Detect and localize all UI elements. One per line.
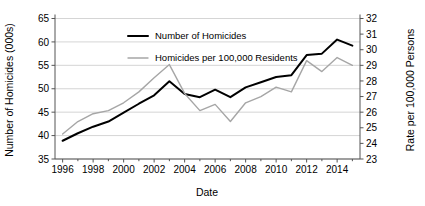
x-tick-label: 2014 — [326, 164, 349, 175]
x-tick-label: 2002 — [143, 164, 166, 175]
x-tick-label: 2008 — [235, 164, 258, 175]
x-tick-label: 2000 — [113, 164, 136, 175]
legend-label: Number of Homicides — [155, 30, 247, 41]
y-axis-right-title: Rate per 100,000 Persons — [404, 29, 416, 152]
x-tick-label: 2006 — [204, 164, 227, 175]
y-axis-left — [52, 15, 56, 160]
y-axis-right — [360, 15, 364, 160]
y-axis-right-ticklabels: 23242526272829303132 — [366, 13, 378, 165]
y-tick-label-right: 24 — [366, 138, 378, 149]
homicides-line-chart: 35404550556065 23242526272829303132 1996… — [0, 0, 425, 206]
chart-figure: 35404550556065 23242526272829303132 1996… — [0, 0, 425, 206]
y-tick-label-left: 45 — [38, 107, 50, 118]
y-tick-label-left: 60 — [38, 37, 50, 48]
y-tick-label-right: 32 — [366, 13, 378, 24]
x-axis-ticklabels: 1996199820002002200420062008201020122014 — [52, 164, 349, 175]
y-tick-label-right: 27 — [366, 91, 378, 102]
y-tick-label-right: 26 — [366, 107, 378, 118]
y-tick-label-left: 65 — [38, 13, 50, 24]
chart-legend: Number of HomicidesHomicides per 100,000… — [128, 30, 298, 63]
y-tick-label-left: 55 — [38, 60, 50, 71]
y-tick-label-right: 28 — [366, 76, 378, 87]
y-axis-left-title: Number of Homicides (000s) — [3, 23, 15, 157]
x-tick-label: 1996 — [52, 164, 75, 175]
y-tick-label-left: 40 — [38, 130, 50, 141]
y-tick-label-right: 31 — [366, 29, 378, 40]
y-tick-label-right: 25 — [366, 122, 378, 133]
x-axis — [55, 159, 360, 163]
x-tick-label: 2004 — [174, 164, 197, 175]
y-axis-left-ticklabels: 35404550556065 — [38, 13, 50, 165]
y-tick-label-left: 50 — [38, 83, 50, 94]
x-tick-label: 1998 — [82, 164, 105, 175]
x-tick-label: 2010 — [265, 164, 288, 175]
y-tick-label-left: 35 — [38, 154, 50, 165]
y-tick-label-right: 23 — [366, 154, 378, 165]
x-tick-label: 2012 — [296, 164, 319, 175]
legend-label: Homicides per 100,000 Residents — [155, 52, 298, 63]
x-axis-title: Date — [196, 186, 218, 198]
y-tick-label-right: 29 — [366, 60, 378, 71]
y-tick-label-right: 30 — [366, 44, 378, 55]
